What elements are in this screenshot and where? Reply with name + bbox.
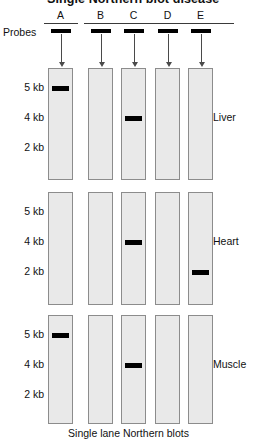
probe-letter-e: E (188, 9, 214, 21)
figure-title: Single Northern blot disease (47, 0, 219, 6)
lane-heart-a (48, 192, 73, 305)
figure-caption: Single lane Northern blots (0, 427, 257, 439)
probe-bar-b (91, 29, 111, 33)
probe-letter-d: D (155, 9, 181, 21)
probe-underline-e (184, 23, 234, 24)
probe-bar-e (191, 29, 211, 33)
axis-tick-muscle-4kb: 4 kb (8, 358, 44, 370)
lane-muscle-e (188, 315, 213, 424)
tissue-label-muscle: Muscle (213, 358, 246, 370)
probe-bar-c (124, 29, 144, 33)
lane-liver-d (155, 68, 180, 180)
probe-arrowhead-d (166, 62, 172, 67)
lane-muscle-c (121, 315, 146, 424)
probe-underline-b (84, 23, 118, 24)
tissue-label-liver: Liver (213, 111, 236, 123)
axis-tick-muscle-2kb: 2 kb (8, 388, 44, 400)
lane-heart-c (121, 192, 146, 305)
probe-arrowhead-c (132, 62, 138, 67)
band-heart-e-2kb (192, 270, 209, 275)
tissue-label-heart: Heart (213, 235, 239, 247)
lane-liver-c (121, 68, 146, 180)
lane-heart-e (188, 192, 213, 305)
probe-letter-c: C (121, 9, 147, 21)
probe-arrow-line-e (201, 34, 202, 63)
lane-muscle-b (88, 315, 113, 424)
axis-tick-liver-5kb: 5 kb (8, 81, 44, 93)
band-muscle-c-4kb (125, 363, 142, 368)
lane-liver-a (48, 68, 73, 180)
probe-arrow-line-b (101, 34, 102, 63)
band-liver-c-4kb (125, 116, 142, 121)
lane-muscle-d (155, 315, 180, 424)
axis-tick-liver-4kb: 4 kb (8, 111, 44, 123)
probe-underline-c (117, 23, 151, 24)
band-liver-a-5kb (52, 86, 69, 91)
probe-arrow-line-a (61, 34, 62, 63)
probe-underline-d (151, 23, 185, 24)
probe-letter-a: A (48, 9, 74, 21)
probe-underline-a (44, 23, 78, 24)
band-heart-c-4kb (125, 240, 142, 245)
lane-heart-d (155, 192, 180, 305)
axis-tick-muscle-5kb: 5 kb (8, 328, 44, 340)
lane-heart-b (88, 192, 113, 305)
figure-title-clipped: Single Northern blot disease (0, 0, 257, 7)
axis-tick-heart-2kb: 2 kb (8, 265, 44, 277)
probe-arrowhead-e (199, 62, 205, 67)
lane-muscle-a (48, 315, 73, 424)
probe-arrow-line-d (168, 34, 169, 63)
axis-tick-liver-2kb: 2 kb (8, 141, 44, 153)
probe-arrow-line-c (134, 34, 135, 63)
probe-bar-a (51, 29, 71, 33)
axis-tick-heart-5kb: 5 kb (8, 205, 44, 217)
band-muscle-a-5kb (52, 333, 69, 338)
lane-liver-b (88, 68, 113, 180)
probe-letter-b: B (88, 9, 114, 21)
probes-label: Probes (3, 26, 36, 38)
lane-liver-e (188, 68, 213, 180)
probe-arrowhead-b (99, 62, 105, 67)
probe-bar-d (158, 29, 178, 33)
northern-blot-figure: Single Northern blot disease Probes ABCD… (0, 0, 257, 443)
probe-arrowhead-a (59, 62, 65, 67)
axis-tick-heart-4kb: 4 kb (8, 235, 44, 247)
